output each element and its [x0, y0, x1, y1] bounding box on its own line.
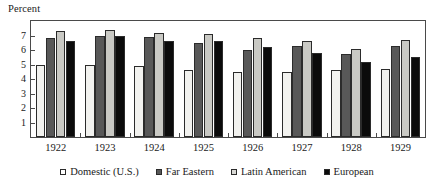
legend-swatch-icon	[60, 169, 66, 175]
bar	[194, 43, 203, 137]
bar	[95, 36, 104, 138]
bar	[144, 37, 153, 137]
legend-swatch-icon	[231, 169, 237, 175]
y-tick-mark	[31, 94, 35, 95]
bar	[184, 70, 193, 137]
legend-item: Latin American	[231, 166, 307, 177]
y-tick-mark	[31, 123, 35, 124]
x-tick-mark	[80, 133, 81, 137]
bar	[312, 53, 321, 137]
bar	[302, 41, 311, 137]
legend-item: European	[324, 166, 374, 177]
bar-group	[376, 21, 425, 137]
bar	[253, 38, 262, 137]
bar	[351, 49, 360, 137]
bar	[134, 66, 143, 137]
bar	[282, 72, 291, 137]
y-tick-label: 2	[12, 103, 26, 113]
x-tick-mark	[130, 133, 131, 137]
y-tick-mark	[31, 65, 35, 66]
y-tick-mark	[31, 36, 35, 37]
y-tick-label: 5	[12, 60, 26, 70]
y-tick-label: 4	[12, 74, 26, 84]
x-tick-mark	[179, 133, 180, 137]
legend-label: Latin American	[241, 166, 307, 177]
legend-label: European	[334, 166, 374, 177]
y-tick-mark	[31, 79, 35, 80]
x-tick-label: 1925	[193, 142, 214, 153]
bar-group	[80, 21, 129, 137]
bar	[56, 31, 65, 137]
bar-group	[228, 21, 277, 137]
bar	[263, 47, 272, 137]
chart-legend: Domestic (U.S.)Far EasternLatin American…	[0, 166, 434, 177]
bar-group	[327, 21, 376, 137]
legend-swatch-icon	[324, 169, 330, 175]
legend-label: Far Eastern	[166, 166, 214, 177]
x-tick-label: 1928	[341, 142, 362, 153]
chart-container: Percent 1234567 192219231924192519261927…	[0, 0, 434, 189]
bar-group	[130, 21, 179, 137]
x-tick-label: 1922	[45, 142, 66, 153]
bar	[115, 36, 124, 138]
bar	[401, 40, 410, 137]
bar	[36, 65, 45, 138]
bar-group	[31, 21, 80, 137]
bar	[85, 65, 94, 138]
bar	[204, 34, 213, 137]
legend-item: Far Eastern	[156, 166, 214, 177]
x-tick-label: 1923	[94, 142, 115, 153]
y-tick-label: 1	[12, 118, 26, 128]
x-tick-label: 1924	[144, 142, 165, 153]
bar	[66, 41, 75, 137]
bar	[381, 69, 390, 137]
y-tick-mark	[31, 50, 35, 51]
bar	[411, 57, 420, 137]
bar	[292, 46, 301, 137]
bar	[331, 70, 340, 137]
bar	[154, 33, 163, 137]
plot-frame	[30, 20, 426, 138]
bar	[243, 50, 252, 137]
x-tick-mark	[228, 133, 229, 137]
y-tick-label: 3	[12, 89, 26, 99]
legend-item: Domestic (U.S.)	[60, 166, 139, 177]
y-tick-mark	[31, 108, 35, 109]
bar	[214, 41, 223, 137]
bar	[105, 30, 114, 137]
x-tick-mark	[376, 133, 377, 137]
legend-swatch-icon	[156, 169, 162, 175]
x-tick-label: 1926	[242, 142, 263, 153]
legend-label: Domestic (U.S.)	[70, 166, 139, 177]
bar	[391, 46, 400, 137]
x-tick-label: 1927	[291, 142, 312, 153]
bar-group	[277, 21, 326, 137]
y-tick-label: 7	[12, 31, 26, 41]
bar	[46, 38, 55, 137]
bar	[341, 54, 350, 137]
x-tick-label: 1929	[390, 142, 411, 153]
y-axis-title: Percent	[8, 3, 40, 14]
bar	[361, 62, 370, 137]
y-tick-label: 6	[12, 45, 26, 55]
bar	[164, 41, 173, 137]
x-tick-mark	[327, 133, 328, 137]
plot-area	[31, 21, 425, 137]
bar	[233, 72, 242, 137]
bar-group	[179, 21, 228, 137]
x-tick-mark	[277, 133, 278, 137]
